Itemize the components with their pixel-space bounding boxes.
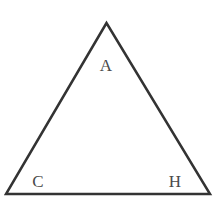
vertex-label-h: H [169,172,181,191]
vertex-label-a: A [100,56,113,75]
triangle-shape [6,23,210,194]
vertex-label-c: C [32,172,43,191]
triangle-diagram: A C H [0,0,219,206]
